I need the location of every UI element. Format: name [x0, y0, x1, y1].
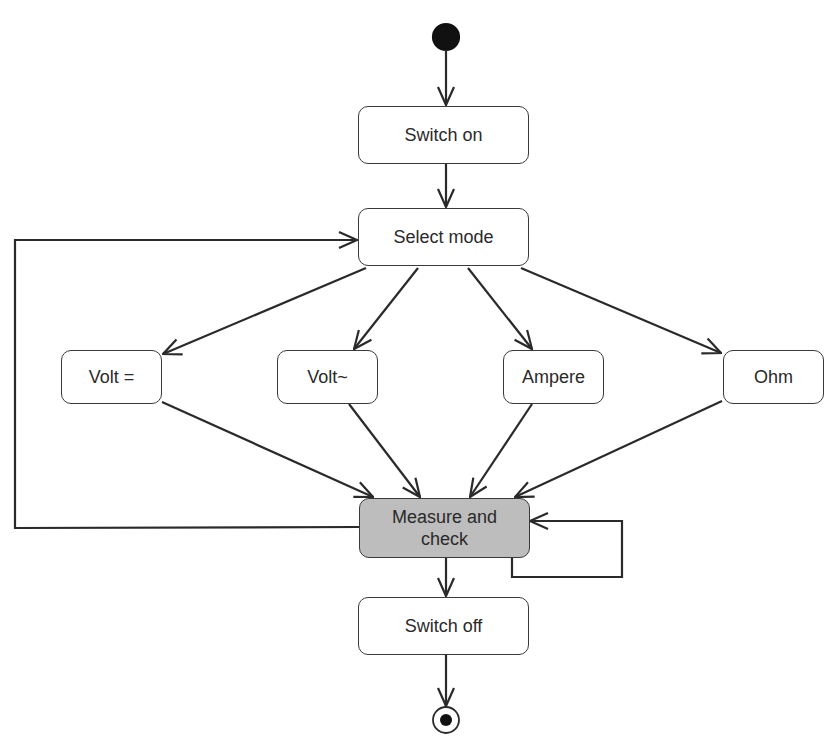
initial-node	[433, 24, 459, 50]
action-switch-off: Switch off	[358, 597, 529, 655]
edge-ohm-to-measure	[515, 401, 722, 497]
edge-select-to-volt-ac	[354, 268, 418, 349]
edge-select-to-volt-dc	[163, 268, 366, 354]
action-label: Volt~	[307, 366, 348, 388]
action-label: Switch on	[404, 124, 482, 146]
action-label-line2: check	[421, 528, 468, 550]
action-volt-ac: Volt~	[277, 350, 378, 404]
action-ohm: Ohm	[723, 350, 824, 404]
action-label: Ampere	[522, 366, 585, 388]
edge-select-to-ohm	[521, 268, 721, 353]
action-ampere: Ampere	[503, 350, 604, 404]
edge-select-to-ampere	[468, 268, 532, 349]
action-switch-on: Switch on	[358, 106, 529, 164]
edge-ampere-to-measure	[470, 404, 532, 497]
action-label: Ohm	[754, 366, 793, 388]
edge-volt-dc-to-measure	[162, 402, 373, 497]
action-volt-dc: Volt =	[61, 350, 162, 404]
action-label: Switch off	[405, 615, 483, 637]
action-select-mode: Select mode	[358, 208, 529, 266]
action-label: Select mode	[393, 226, 493, 248]
action-label-line1: Measure and	[392, 506, 497, 528]
action-label: Volt =	[89, 366, 135, 388]
edge-volt-ac-to-measure	[349, 404, 420, 497]
action-measure-and-check: Measure and check	[359, 498, 530, 558]
final-node-inner	[440, 714, 452, 726]
